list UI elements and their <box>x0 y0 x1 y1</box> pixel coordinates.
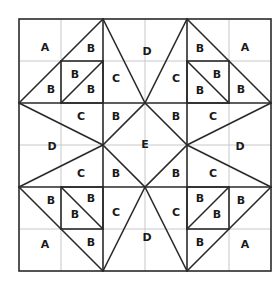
piece-label-d: D <box>142 45 151 58</box>
piece-label-b: B <box>172 110 180 123</box>
piece-label-b: B <box>196 192 204 205</box>
piece-label-c: C <box>209 167 217 180</box>
piece-label-b: B <box>112 167 120 180</box>
quilt-diagram: ABBBBCDCBABBBCBBCDEDCBBCBBBCCBBBABDBA <box>0 0 278 286</box>
piece-label-c: C <box>112 72 120 85</box>
piece-label-c: C <box>77 167 85 180</box>
piece-label-b: B <box>196 236 204 249</box>
piece-label-b: B <box>71 208 79 221</box>
piece-label-c: C <box>112 206 120 219</box>
piece-label-b: B <box>71 68 79 81</box>
piece-label-b: B <box>196 84 204 97</box>
piece-label-b: B <box>87 236 95 249</box>
piece-label-b: B <box>237 83 245 96</box>
piece-label-e: E <box>141 138 149 151</box>
piece-label-c: C <box>172 206 180 219</box>
piece-label-d: D <box>47 140 56 153</box>
piece-label-c: C <box>209 110 217 123</box>
piece-label-b: B <box>87 83 95 96</box>
piece-label-b: B <box>87 192 95 205</box>
piece-label-b: B <box>47 83 55 96</box>
piece-label-c: C <box>77 110 85 123</box>
piece-label-c: C <box>172 72 180 85</box>
piece-label-b: B <box>213 68 221 81</box>
piece-label-a: A <box>241 238 250 251</box>
piece-label-d: D <box>142 231 151 244</box>
piece-label-b: B <box>172 167 180 180</box>
piece-label-a: A <box>41 238 50 251</box>
piece-label-b: B <box>213 208 221 221</box>
piece-label-a: A <box>241 41 250 54</box>
piece-label-b: B <box>112 110 120 123</box>
piece-label-b: B <box>196 42 204 55</box>
piece-label-b: B <box>237 194 245 207</box>
piece-label-a: A <box>41 41 50 54</box>
piece-label-b: B <box>47 194 55 207</box>
piece-label-d: D <box>235 140 244 153</box>
piece-label-b: B <box>87 42 95 55</box>
